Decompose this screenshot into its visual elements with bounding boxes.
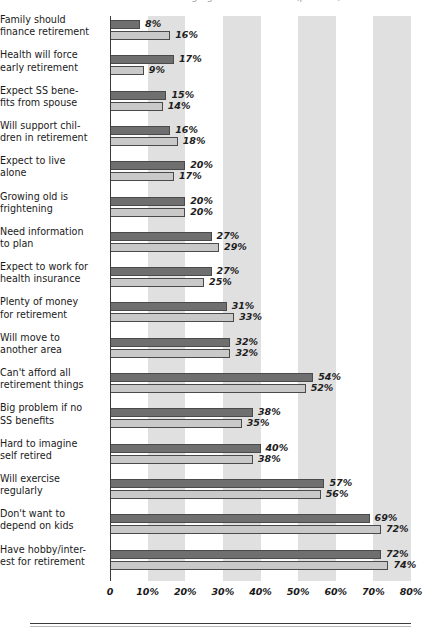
bar-series-1 (110, 338, 230, 347)
category-label-line: depend on kids (0, 520, 100, 532)
bar-series-2 (110, 243, 219, 252)
bar-series-2 (110, 525, 381, 534)
bar-value-label: 27% (217, 266, 240, 276)
bar-row: 38%35% (110, 408, 411, 434)
bar-value-label: 33% (239, 312, 262, 322)
bar-series-1 (110, 302, 227, 311)
bar-series-2 (110, 349, 230, 358)
category-label-line: alone (0, 167, 100, 179)
bar-value-label: 32% (235, 348, 258, 358)
bar-row: 15%14% (110, 91, 411, 117)
category-label-line: health insurance (0, 273, 100, 285)
category-label: Have hobby/inter-est for retirement (0, 544, 100, 568)
category-label-line: Expect to live (0, 155, 100, 167)
bar-series-1 (110, 444, 261, 453)
bar-value-label: 38% (258, 407, 281, 417)
category-label-line: fits from spouse (0, 97, 100, 109)
bar-value-label: 15% (171, 90, 194, 100)
bar-row: 31%33% (110, 302, 411, 328)
category-label-line: Plenty of money (0, 296, 100, 308)
bar-row: 40%38% (110, 444, 411, 470)
bar-series-1 (110, 55, 174, 64)
category-label: Expect to work forhealth insurance (0, 261, 100, 285)
bar-value-label: 38% (258, 454, 281, 464)
category-label-line: Expect to work for (0, 261, 100, 273)
chart-root: Attitudes Toward Aging and Retirement (p… (0, 0, 440, 634)
bar-row: 8%16% (110, 20, 411, 46)
bar-series-1 (110, 197, 185, 206)
category-labels: Family shouldfinance retirementHealth wi… (0, 16, 108, 581)
bar-value-label: 32% (235, 337, 258, 347)
bar-series-2 (110, 561, 388, 570)
bar-series-1 (110, 161, 185, 170)
x-tick-label: 60% (324, 586, 347, 597)
bar-series-2 (110, 313, 234, 322)
bar-value-label: 56% (326, 489, 349, 499)
category-label-line: for retirement (0, 309, 100, 321)
bar-value-label: 72% (386, 549, 409, 559)
bar-series-1 (110, 373, 313, 382)
bar-value-label: 18% (183, 136, 206, 146)
category-label-line: Health will force (0, 49, 100, 61)
bar-value-label: 29% (224, 242, 247, 252)
bar-value-label: 25% (209, 277, 232, 287)
bar-value-label: 17% (179, 171, 202, 181)
category-label-line: frightening (0, 203, 100, 215)
category-label-line: est for retirement (0, 556, 100, 568)
bar-series-2 (110, 278, 204, 287)
bar-row: 54%52% (110, 373, 411, 399)
category-label: Family shouldfinance retirement (0, 14, 100, 38)
category-label: Can't afford allretirement things (0, 367, 100, 391)
bar-row: 27%25% (110, 267, 411, 293)
bar-value-label: 16% (175, 125, 198, 135)
x-tick-label: 80% (400, 586, 423, 597)
footer-rule-shadow (30, 626, 411, 627)
bar-value-label: 9% (149, 65, 165, 75)
bar-value-label: 54% (318, 372, 341, 382)
bar-value-label: 14% (168, 101, 191, 111)
bar-value-label: 52% (311, 383, 334, 393)
bar-rows: 8%16%17%9%15%14%16%18%20%17%20%20%27%29%… (110, 16, 411, 581)
category-label-line: regularly (0, 485, 100, 497)
plot-area: 8%16%17%9%15%14%16%18%20%17%20%20%27%29%… (110, 16, 411, 581)
category-label: Hard to imagineself retired (0, 438, 100, 462)
category-label-line: Will support chil- (0, 120, 100, 132)
category-label-line: retirement things (0, 379, 100, 391)
bar-series-1 (110, 408, 253, 417)
bar-series-2 (110, 419, 242, 428)
x-tick-label: 10% (136, 586, 159, 597)
bar-row: 69%72% (110, 514, 411, 540)
bar-row: 20%20% (110, 197, 411, 223)
bar-series-2 (110, 384, 306, 393)
bar-series-2 (110, 137, 178, 146)
x-tick-label: 40% (249, 586, 272, 597)
x-tick-label: 20% (174, 586, 197, 597)
bar-row: 27%29% (110, 232, 411, 258)
category-label-line: another area (0, 344, 100, 356)
category-label: Big problem if noSS benefits (0, 402, 100, 426)
category-label: Don't want todepend on kids (0, 508, 100, 532)
bar-value-label: 17% (179, 54, 202, 64)
category-label: Will move toanother area (0, 332, 100, 356)
category-label-line: Can't afford all (0, 367, 100, 379)
category-label-line: Expect SS bene- (0, 85, 100, 97)
bar-row: 32%32% (110, 338, 411, 364)
bar-series-2 (110, 66, 144, 75)
category-label: Growing old isfrightening (0, 191, 100, 215)
bar-series-1 (110, 20, 140, 29)
category-label-line: Have hobby/inter- (0, 544, 100, 556)
bar-value-label: 40% (266, 443, 289, 453)
category-label-line: Need information (0, 226, 100, 238)
category-label-line: Hard to imagine (0, 438, 100, 450)
bar-value-label: 8% (145, 19, 161, 29)
x-tick-label: 70% (362, 586, 385, 597)
category-label-line: dren in retirement (0, 132, 100, 144)
x-tick-label: 0 (107, 586, 114, 597)
footer-rule (30, 623, 411, 624)
bar-series-1 (110, 91, 166, 100)
bar-row: 72%74% (110, 550, 411, 576)
bar-value-label: 20% (190, 196, 213, 206)
bar-series-1 (110, 267, 212, 276)
bar-value-label: 27% (217, 231, 240, 241)
bar-series-2 (110, 31, 170, 40)
